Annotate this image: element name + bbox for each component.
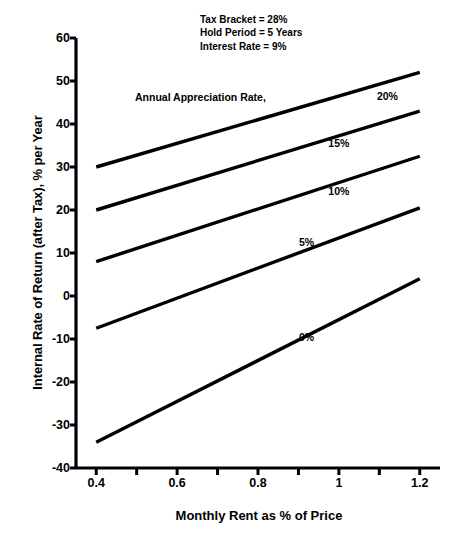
annotation-tax-bracket: Tax Bracket = 28% [200,13,302,26]
series-line-10pct [96,156,420,261]
x-tick-label-wrap: 1 [309,476,369,492]
y-tick-label: 50 [34,74,70,88]
annotation-block: Tax Bracket = 28% Hold Period = 5 Years … [200,13,302,53]
series-line-0pct [96,279,420,442]
y-tick-label: 0 [34,289,70,303]
y-tick-label: 10 [34,246,70,260]
x-tick-label-wrap: 0.8 [228,476,288,492]
y-tick-label: -10 [34,332,70,346]
legend-title: Annual Appreciation Rate, [135,91,266,103]
series-label-5pct: 5% [299,236,314,248]
y-tick-label: -30 [34,418,70,432]
series-label-15pct: 15% [328,137,349,149]
y-tick-label: 30 [34,160,70,174]
annotation-hold-period: Hold Period = 5 Years [200,26,302,39]
x-tick-label: 0.4 [66,476,126,490]
axes [70,38,440,475]
x-tick-label-wrap: 0.4 [66,476,126,492]
annotation-interest-rate: Interest Rate = 9% [200,40,302,53]
y-tick-label: -20 [34,375,70,389]
series-line-15pct [96,111,420,210]
x-tick-label-wrap: 1.2 [390,476,450,492]
x-tick-label: 0.6 [147,476,207,490]
y-tick-label: 60 [34,31,70,45]
y-tick-label: -40 [34,461,70,475]
series-label-10pct: 10% [328,185,349,197]
series-label-20pct: 20% [377,90,398,102]
x-tick-label-wrap: 0.6 [147,476,207,492]
series-line-5pct [96,208,420,328]
x-tick-label: 1.2 [390,476,450,490]
x-axis-title: Monthly Rent as % of Price [76,508,442,523]
y-tick-label: 40 [34,117,70,131]
x-tick-label: 0.8 [228,476,288,490]
y-tick-label: 20 [34,203,70,217]
series-lines [96,72,420,442]
x-tick-label: 1 [309,476,369,490]
series-line-20pct [96,72,420,167]
chart-container: Internal Rate of Return (after Tax), % p… [0,0,458,548]
series-label-0pct: 0% [299,331,314,343]
